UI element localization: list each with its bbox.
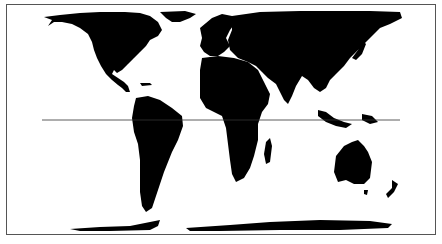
antarctica-east — [186, 220, 392, 231]
indonesia — [318, 110, 352, 128]
greenland — [160, 11, 196, 22]
north-america — [44, 12, 162, 92]
south-america — [132, 96, 183, 212]
new-guinea — [362, 114, 378, 124]
australia — [334, 140, 372, 184]
world-map — [0, 0, 442, 244]
madagascar — [264, 138, 272, 164]
tasmania — [364, 190, 368, 195]
new-zealand — [386, 180, 398, 198]
africa — [200, 56, 270, 182]
antarctica-west — [70, 220, 160, 231]
caribbean — [140, 83, 152, 86]
